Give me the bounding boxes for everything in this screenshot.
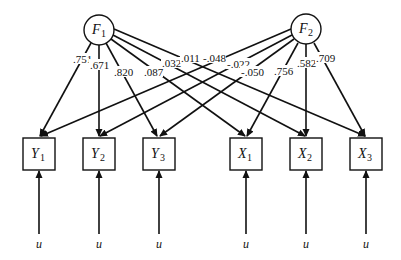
error-label-x2: u xyxy=(303,237,309,251)
loading-f1-x3: .011 xyxy=(181,52,200,64)
loading-f1-y3: .820 xyxy=(114,66,134,78)
svg-text:X: X xyxy=(297,146,307,161)
svg-text:1: 1 xyxy=(101,28,106,39)
svg-text:2: 2 xyxy=(308,27,313,38)
f2-loading-labels: -.048 -.022 -.050 .756 .582 .709 xyxy=(202,52,336,78)
error-label-y3: u xyxy=(156,237,162,251)
loading-f2-y3: -.050 xyxy=(241,66,264,78)
indicator-x1: X 1 xyxy=(230,138,262,170)
svg-text:3: 3 xyxy=(367,152,372,163)
svg-text:1: 1 xyxy=(247,152,252,163)
path-f1-x2 xyxy=(113,35,305,136)
path-diagram: .751 .671 .820 .087 .032 .011 -.048 -.02… xyxy=(0,0,401,260)
loading-f2-x1: .756 xyxy=(274,65,294,77)
loading-f1-x2: .032 xyxy=(162,57,181,69)
factor-f1: F 1 xyxy=(84,15,114,45)
loading-f1-y2: .671 xyxy=(90,59,109,71)
error-label-y1: u xyxy=(36,237,42,251)
error-label-y2: u xyxy=(96,237,102,251)
svg-text:X: X xyxy=(357,146,367,161)
svg-text:1: 1 xyxy=(40,152,45,163)
svg-text:3: 3 xyxy=(160,152,165,163)
error-label-x3: u xyxy=(363,237,369,251)
loading-f2-x3: .709 xyxy=(316,52,336,64)
svg-text:F: F xyxy=(91,22,101,37)
indicator-y2: Y 2 xyxy=(83,138,115,170)
path-f2-y1 xyxy=(41,29,291,136)
svg-text:F: F xyxy=(298,21,308,36)
path-f1-x3 xyxy=(114,29,365,136)
f1-loading-labels: .751 .671 .820 .087 .032 .011 xyxy=(72,52,200,78)
indicator-y1: Y 1 xyxy=(23,138,55,170)
factor-f2: F 2 xyxy=(291,14,321,44)
loading-f2-x2: .582 xyxy=(297,57,316,69)
svg-text:X: X xyxy=(237,146,247,161)
svg-text:2: 2 xyxy=(100,152,105,163)
indicator-y3: Y 3 xyxy=(143,138,175,170)
indicator-x2: X 2 xyxy=(290,138,322,170)
error-terms: u u u u u u xyxy=(36,171,369,251)
error-label-x1: u xyxy=(243,237,249,251)
indicator-x3: X 3 xyxy=(350,138,382,170)
svg-text:2: 2 xyxy=(307,152,312,163)
loading-f1-x1: .087 xyxy=(144,66,164,78)
loading-f2-y1: -.048 xyxy=(203,52,226,64)
